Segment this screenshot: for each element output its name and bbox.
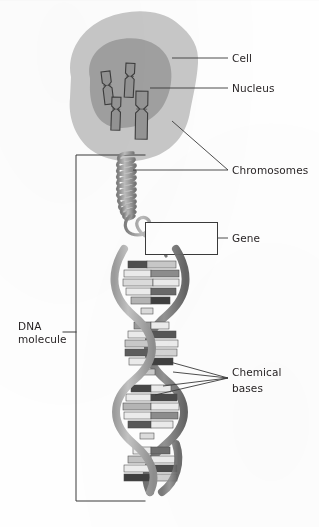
base-pair [151,403,179,410]
base-pair [151,358,173,365]
label-gene: Gene [232,232,260,244]
base-pair [147,261,176,268]
base-pair [151,288,176,295]
base-pair [131,385,151,392]
base-pair [125,340,151,347]
chromosome [124,63,135,97]
base-pair [131,297,151,304]
base-pair [141,308,153,314]
cell-to-dna-illustration [0,0,319,527]
label-chemical-bases-line1: Chemical [232,366,282,379]
base-pair [151,270,179,277]
base-pair [151,385,171,392]
base-pair [123,279,153,286]
base-pair [151,322,169,329]
label-chromosomes: Chromosomes [232,164,308,176]
base-pair [151,297,170,304]
base-pair [126,288,151,295]
label-cell: Cell [232,52,252,64]
chromosome [111,97,121,130]
label-dna-molecule-line1: DNA [18,320,41,333]
base-pair-group [123,261,179,481]
base-pair [151,412,178,419]
base-pair [128,421,151,428]
dna-double-helix [115,249,186,492]
base-pair [151,447,170,454]
label-chemical-bases-line2: bases [232,382,263,395]
label-nucleus: Nucleus [232,82,275,94]
base-pair [124,465,151,472]
base-pair [124,412,151,419]
figure-canvas: Cell Nucleus Chromosomes Gene DNA molecu… [0,0,319,527]
base-pair [151,456,175,463]
base-pair [151,331,176,338]
leader-chromosomes-diagonal [172,121,228,170]
base-pair [151,394,177,401]
chromatin-coil [118,153,135,219]
base-pair [126,394,151,401]
gene-callout-box [146,223,218,255]
base-pair [153,279,179,286]
base-pair [123,403,151,410]
base-pair [125,349,151,356]
base-pair [124,474,151,481]
base-pair [151,421,173,428]
base-pair [128,261,147,268]
label-dna-molecule-line2: molecule [18,333,67,346]
base-pair [124,270,151,277]
chromosome [135,91,148,139]
base-pair [140,433,154,439]
